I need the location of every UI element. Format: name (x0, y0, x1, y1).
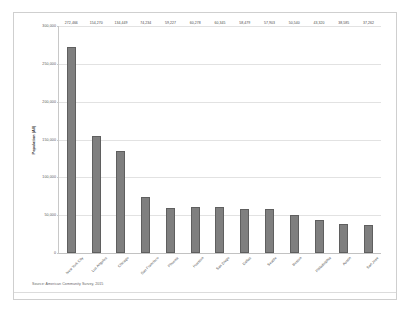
x-axis-tick-label: Los Angeles (91, 256, 108, 273)
y-axis-title: Population (All) (32, 126, 36, 155)
x-tick-slot: Houston (182, 254, 207, 296)
bar-slot: 50,540 (282, 26, 307, 253)
bar-value-label: 58,479 (239, 21, 250, 25)
bar-value-label: 272,466 (65, 21, 78, 25)
bar-slot: 58,479 (232, 26, 257, 253)
bar-value-label: 74,234 (140, 21, 151, 25)
bar-slot: 60,345 (208, 26, 233, 253)
x-axis-tick-labels: New York CityLos AngelesChicagoSan Franc… (58, 254, 381, 296)
x-axis-tick-label: San Jose (365, 256, 379, 270)
divider (14, 292, 396, 293)
bar-value-label: 57,903 (264, 21, 275, 25)
bar[interactable]: 57,903 (265, 209, 274, 253)
x-tick-slot: Phoenix (157, 254, 182, 296)
chart-figure: Population (All) 050,000100,000150,00020… (13, 12, 397, 300)
bar-slot: 43,320 (307, 26, 332, 253)
bar-value-label: 59,227 (165, 21, 176, 25)
bar[interactable]: 58,479 (240, 209, 249, 253)
y-axis-tick-label: 50,000 (44, 213, 56, 217)
x-tick-slot: New York City (58, 254, 83, 296)
x-tick-slot: Chicago (108, 254, 133, 296)
bar-value-label: 37,262 (363, 21, 374, 25)
bar-slot: 37,262 (356, 26, 381, 253)
bar-value-label: 60,278 (190, 21, 201, 25)
y-axis-tick-label: 200,000 (42, 100, 56, 104)
bar-slot: 59,227 (158, 26, 183, 253)
bar[interactable]: 50,540 (290, 215, 299, 253)
bar[interactable]: 134,449 (116, 151, 125, 253)
bar-value-label: 154,270 (90, 21, 103, 25)
bar[interactable]: 154,270 (92, 136, 101, 253)
bar[interactable]: 60,278 (191, 207, 200, 253)
x-tick-slot: Los Angeles (83, 254, 108, 296)
bar-value-label: 38,585 (338, 21, 349, 25)
x-tick-slot: San Francisco (133, 254, 158, 296)
bar[interactable]: 272,466 (67, 47, 76, 253)
bar-slot: 154,270 (84, 26, 109, 253)
x-axis-tick-label: Dallas (242, 256, 252, 266)
bar-slot: 74,234 (133, 26, 158, 253)
bar-slot: 38,585 (331, 26, 356, 253)
y-axis-tick-label: 0 (54, 251, 56, 255)
x-tick-slot: Philadelphia (306, 254, 331, 296)
x-axis-tick-label: Phoenix (167, 256, 179, 268)
y-axis-tick-label: 250,000 (42, 62, 56, 66)
x-tick-slot: Dallas (232, 254, 257, 296)
bar[interactable]: 74,234 (141, 197, 150, 253)
source-note: Source: American Community Survey, 2015 (32, 282, 103, 286)
x-tick-slot: Boston (282, 254, 307, 296)
bar[interactable]: 38,585 (339, 224, 348, 253)
x-tick-slot: Seattle (257, 254, 282, 296)
bar-value-label: 134,449 (114, 21, 127, 25)
x-axis-tick-label: Austin (342, 256, 352, 266)
x-tick-slot: Austin (331, 254, 356, 296)
bar[interactable]: 59,227 (166, 208, 175, 253)
bar-slot: 60,278 (183, 26, 208, 253)
plot-area: 050,000100,000150,000200,000250,000300,0… (58, 26, 381, 253)
y-axis-tick-label: 300,000 (42, 24, 56, 28)
bar[interactable]: 60,345 (215, 207, 224, 253)
x-axis-tick-label: Houston (192, 256, 205, 269)
bar-slot: 272,466 (59, 26, 84, 253)
x-axis-tick-label: San Diego (216, 256, 231, 271)
x-axis-tick-label: Chicago (117, 256, 129, 268)
bar-slot: 57,903 (257, 26, 282, 253)
bar-value-label: 43,320 (314, 21, 325, 25)
bar[interactable]: 43,320 (315, 220, 324, 253)
x-axis-tick-label: Philadelphia (315, 256, 332, 273)
x-axis-tick-label: Boston (292, 256, 303, 267)
y-axis-tick-label: 100,000 (42, 175, 56, 179)
y-axis-tick-label: 150,000 (42, 138, 56, 142)
x-tick-slot: San Jose (356, 254, 381, 296)
bar-series: 272,466154,270134,44974,23459,22760,2786… (59, 26, 381, 253)
bar-value-label: 50,540 (289, 21, 300, 25)
x-tick-slot: San Diego (207, 254, 232, 296)
bar[interactable]: 37,262 (364, 225, 373, 253)
bar-value-label: 60,345 (214, 21, 225, 25)
x-axis-tick-label: Seattle (267, 256, 278, 267)
bar-slot: 134,449 (109, 26, 134, 253)
